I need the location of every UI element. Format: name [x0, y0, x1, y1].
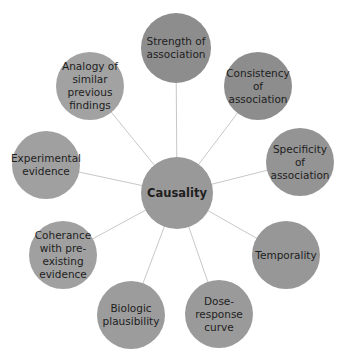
- node-label: Coherance with pre- existing evidence: [35, 229, 92, 281]
- criterion-node: Specificity of association: [266, 128, 334, 196]
- criterion-node: Experimental evidence: [12, 131, 80, 199]
- node-label: Experimental evidence: [11, 152, 81, 178]
- node-label: Causality: [147, 187, 207, 200]
- node-label: Consistency of association: [226, 67, 290, 106]
- node-label: Strength of association: [146, 35, 205, 61]
- node-label: Dose- response curve: [195, 295, 243, 334]
- node-label: Analogy of similar previous findings: [62, 60, 118, 112]
- criterion-node: Analogy of similar previous findings: [56, 52, 124, 120]
- criterion-node: Coherance with pre- existing evidence: [29, 221, 97, 289]
- criterion-node: Strength of association: [141, 13, 211, 83]
- criterion-node: Dose- response curve: [185, 280, 253, 348]
- node-label: Biologic plausibility: [103, 302, 160, 328]
- criterion-node: Consistency of association: [224, 52, 292, 120]
- criterion-node: Temporality: [252, 221, 320, 289]
- criterion-node: Biologic plausibility: [97, 281, 165, 349]
- center-node-causality: Causality: [141, 157, 213, 229]
- node-label: Specificity of association: [270, 143, 330, 182]
- node-label: Temporality: [255, 249, 316, 262]
